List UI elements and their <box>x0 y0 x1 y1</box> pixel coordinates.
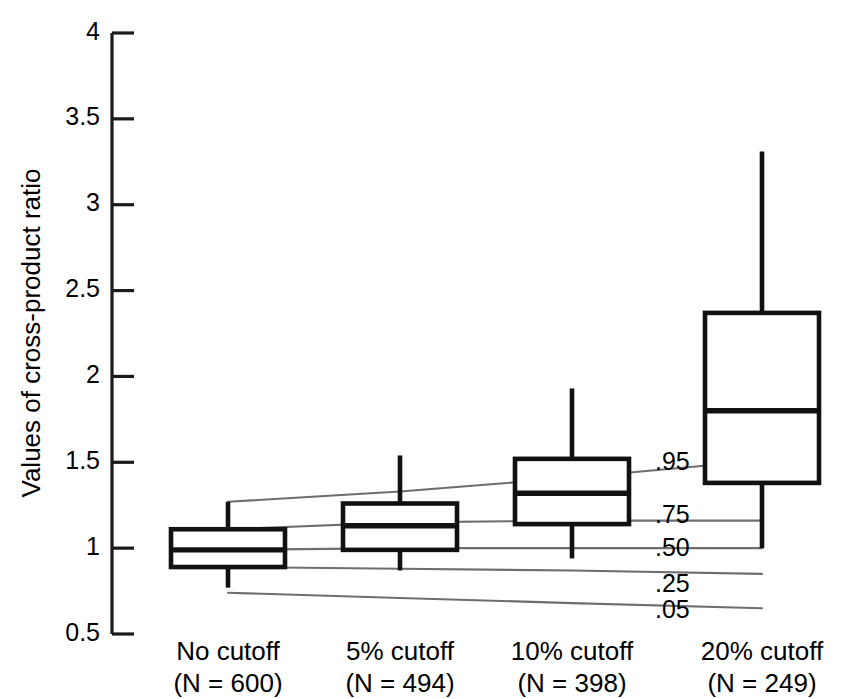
y-axis-tick-label: 3 <box>86 188 100 216</box>
category-label-3: (N = 398) <box>517 668 626 698</box>
box-plot-3 <box>515 388 629 558</box>
y-axis: 0.511.522.533.54 <box>65 17 134 646</box>
category-label-4: 20% cutoff <box>701 636 824 666</box>
chart-canvas: 0.511.522.533.54 .95.75.50.25.05 No cuto… <box>0 0 849 699</box>
y-axis-title-text: Values of cross-product ratio <box>16 169 46 498</box>
category-label-4: (N = 249) <box>707 668 816 698</box>
category-label-1: (N = 600) <box>173 668 282 698</box>
category-label-1: No cutoff <box>176 636 280 666</box>
percentile-label-p95: .95 <box>655 447 690 475</box>
y-axis-tick-label: 3.5 <box>65 102 100 130</box>
percentile-label-p25: .25 <box>655 569 690 597</box>
category-label-3: 10% cutoff <box>511 636 634 666</box>
y-axis-tick-label: 2 <box>86 360 100 388</box>
category-label-2: (N = 494) <box>345 668 454 698</box>
category-axis-labels: No cutoff(N = 600)5% cutoff(N = 494)10% … <box>173 636 824 698</box>
percentile-curve-labels: .95.75.50.25.05 <box>655 447 690 623</box>
y-axis-tick-label: 1 <box>86 532 100 560</box>
box-plot-4 <box>705 151 819 548</box>
percentile-label-p05: .05 <box>655 595 690 623</box>
box-plot-figure: 0.511.522.533.54 .95.75.50.25.05 No cuto… <box>0 0 849 699</box>
box-plot-1 <box>171 502 285 588</box>
percentile-label-p50: .50 <box>655 533 690 561</box>
y-axis-tick-label: 0.5 <box>65 618 100 646</box>
category-label-2: 5% cutoff <box>346 636 455 666</box>
y-axis-title: Values of cross-product ratio <box>16 169 46 498</box>
y-axis-tick-label: 1.5 <box>65 446 100 474</box>
percentile-label-p75: .75 <box>655 500 690 528</box>
y-axis-tick-label: 2.5 <box>65 274 100 302</box>
y-axis-tick-label: 4 <box>86 17 100 45</box>
box-iqr <box>705 313 819 483</box>
box-plot-2 <box>343 455 457 570</box>
